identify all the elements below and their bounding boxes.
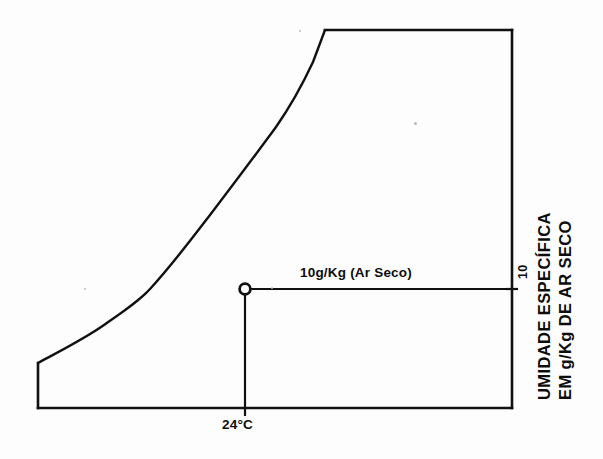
temperature-tick-label: 24°C — [222, 417, 253, 432]
psychrometric-chart: 10g/Kg (Ar Seco) 24°C 10 UMIDADE ESPECÍF… — [0, 0, 603, 459]
axis-title-line-one: UMIDADE ESPECÍFICA — [535, 212, 554, 400]
chart-canvas — [0, 0, 603, 459]
scan-speck — [299, 30, 301, 32]
humidity-line-label: 10g/Kg (Ar Seco) — [300, 265, 412, 280]
humidity-tick-label: 10 — [516, 265, 530, 279]
scan-speck — [84, 288, 86, 290]
scan-speck — [271, 287, 273, 289]
saturation-curve — [38, 30, 325, 363]
axis-title-line-two: EM g/Kg DE AR SECO — [556, 220, 575, 400]
state-point-marker-icon — [240, 284, 251, 295]
scan-speck — [414, 122, 417, 125]
